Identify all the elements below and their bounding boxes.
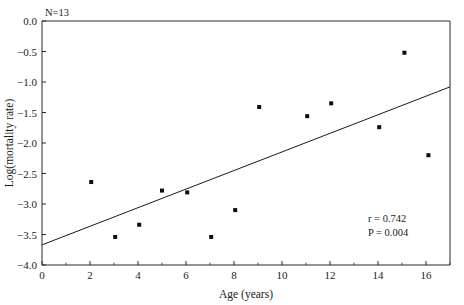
- x-tick-label: 0: [39, 269, 45, 281]
- data-point: [329, 101, 333, 105]
- pvalue-label: P = 0.004: [368, 227, 409, 238]
- x-tick-label: 8: [231, 269, 237, 281]
- y-tick-label: −3.5: [17, 229, 37, 241]
- y-axis-tick-labels: 0.0−0.5−1.0−1.5−2.0−2.5−3.0−3.5−4.0: [17, 15, 37, 271]
- y-tick-label: −1.0: [17, 76, 37, 88]
- y-tick-label: −3.0: [17, 198, 37, 210]
- data-point: [209, 235, 213, 239]
- x-tick-label: 2: [87, 269, 93, 281]
- data-point: [185, 190, 189, 194]
- x-tick-label: 16: [421, 269, 433, 281]
- x-axis-title: Age (years): [219, 288, 273, 301]
- y-tick-label: −0.5: [17, 46, 37, 58]
- data-point: [137, 223, 141, 227]
- x-tick-label: 6: [183, 269, 189, 281]
- data-point: [113, 235, 117, 239]
- y-tick-label: −4.0: [17, 259, 37, 271]
- x-tick-label: 10: [277, 269, 289, 281]
- data-point: [160, 189, 164, 193]
- data-point: [377, 125, 381, 129]
- data-point: [257, 105, 261, 109]
- y-tick-label: 0.0: [23, 15, 37, 27]
- data-point: [89, 180, 93, 184]
- y-axis-title: Log(mortality rate): [3, 99, 16, 188]
- sample-size-label: N=13: [45, 7, 69, 18]
- data-point: [426, 153, 430, 157]
- x-tick-label: 12: [325, 269, 336, 281]
- chart-canvas: 0246810121416 0.0−0.5−1.0−1.5−2.0−2.5−3.…: [0, 0, 464, 305]
- y-tick-label: −2.0: [17, 137, 37, 149]
- y-tick-label: −1.5: [17, 107, 37, 119]
- x-tick-label: 4: [135, 269, 141, 281]
- y-tick-label: −2.5: [17, 168, 37, 180]
- data-point: [402, 51, 406, 55]
- correlation-label: r = 0.742: [368, 213, 406, 224]
- data-point: [233, 208, 237, 212]
- x-tick-label: 14: [373, 269, 385, 281]
- data-point: [305, 114, 309, 118]
- chart-background: [0, 0, 464, 305]
- scatter-plot-figure: 0246810121416 0.0−0.5−1.0−1.5−2.0−2.5−3.…: [0, 0, 464, 305]
